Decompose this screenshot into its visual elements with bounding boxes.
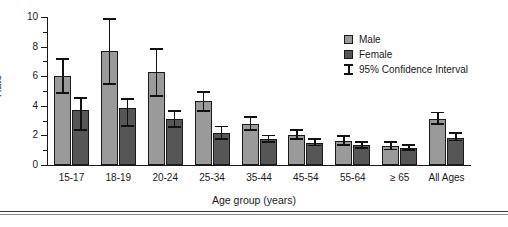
y-tick-major — [41, 135, 48, 136]
legend-label-male: Male — [359, 34, 381, 45]
x-tick-label: 15-17 — [48, 172, 95, 183]
x-tick-label: 25-34 — [189, 172, 236, 183]
bar-female — [306, 143, 323, 165]
bar-male — [54, 76, 71, 165]
y-tick-major — [41, 76, 48, 77]
bar-male — [195, 101, 212, 165]
bar-female — [72, 110, 89, 165]
bar-female — [119, 108, 136, 165]
bar-male — [429, 119, 446, 165]
y-tick-major — [41, 17, 48, 18]
x-tick-label: 45-54 — [282, 172, 329, 183]
error-bar-icon — [344, 64, 353, 75]
chart-legend: Male Female 95% Confidence Interval — [344, 32, 468, 77]
bar-female — [447, 138, 464, 165]
bar-group — [195, 17, 230, 165]
y-tick-label: 6 — [8, 71, 38, 81]
x-axis-title: Age group (years) — [0, 194, 508, 206]
bar-male — [288, 135, 305, 165]
y-tick-label: 4 — [8, 101, 38, 111]
legend-label-confidence-interval: 95% Confidence Interval — [359, 64, 468, 75]
bar-female — [213, 133, 230, 165]
bar-group — [242, 17, 277, 165]
bar-female — [260, 139, 277, 165]
bar-male — [382, 146, 399, 165]
bar-female — [400, 148, 417, 165]
page-divider-bottom — [0, 214, 508, 215]
x-axis-line — [47, 165, 471, 166]
y-tick-label: 2 — [8, 130, 38, 140]
y-tick-major — [41, 47, 48, 48]
bar-female — [166, 119, 183, 165]
x-tick-label: 55-64 — [329, 172, 376, 183]
chart-figure: Rate 0246810 15-1718-1920-2425-3435-4445… — [0, 0, 508, 227]
x-tick-label: ≥ 65 — [376, 172, 423, 183]
legend-item-female: Female — [344, 47, 468, 62]
bar-male — [148, 72, 165, 165]
bar-group — [101, 17, 136, 165]
bar-male — [242, 124, 259, 165]
x-tick-label: All Ages — [423, 172, 470, 183]
y-tick-label: 10 — [8, 12, 38, 22]
male-swatch-icon — [344, 35, 353, 44]
x-tick-label: 35-44 — [236, 172, 283, 183]
legend-label-female: Female — [359, 49, 392, 60]
page-divider-top — [0, 211, 508, 212]
female-swatch-icon — [344, 50, 353, 59]
legend-item-confidence-interval: 95% Confidence Interval — [344, 62, 468, 77]
y-tick-label: 0 — [8, 160, 38, 170]
bar-group — [54, 17, 89, 165]
bar-female — [353, 145, 370, 165]
legend-item-male: Male — [344, 32, 468, 47]
x-tick-label: 18-19 — [95, 172, 142, 183]
bar-group — [148, 17, 183, 165]
y-tick-major — [41, 106, 48, 107]
bar-male — [335, 141, 352, 165]
x-tick-label: 20-24 — [142, 172, 189, 183]
bar-group — [288, 17, 323, 165]
y-tick-major — [41, 165, 48, 166]
y-axis-title: Rate — [0, 75, 3, 97]
y-tick-label: 8 — [8, 42, 38, 52]
bar-male — [101, 51, 118, 165]
